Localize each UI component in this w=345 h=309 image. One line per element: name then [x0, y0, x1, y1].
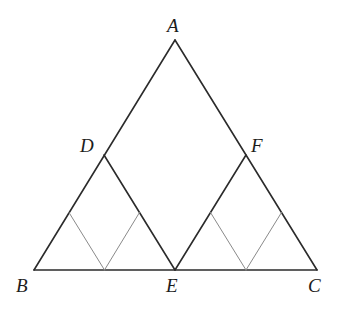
segment-mBD-mBE [69, 213, 105, 271]
vertex-label-B: B [16, 276, 28, 295]
secondary-edges [69, 213, 282, 271]
figure-canvas [0, 0, 345, 309]
primary-edges [34, 40, 317, 270]
vertex-label-D: D [80, 136, 94, 155]
segment-mEF-mEC [211, 213, 247, 271]
segment-mBE-mDE [105, 213, 140, 271]
vertex-label-C: C [308, 276, 321, 295]
geometry-figure: A B C D E F [0, 0, 345, 309]
vertex-label-F: F [251, 136, 263, 155]
vertex-label-E: E [166, 276, 178, 295]
segment-mEC-mFC [246, 213, 282, 271]
vertex-label-A: A [167, 16, 179, 35]
